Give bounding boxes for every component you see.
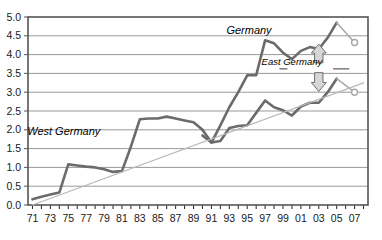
y-axis-label: 3.0	[6, 86, 21, 98]
germany-label: Germany	[226, 24, 273, 36]
y-axis-label: 0.0	[6, 199, 21, 211]
y-axis-labels: 0.00.51.01.52.02.53.03.54.04.55.0	[6, 11, 21, 211]
down-arrow-icon	[311, 73, 326, 92]
y-axis-label: 4.0	[6, 48, 21, 60]
x-axis-label: 05	[331, 212, 343, 224]
x-axis-label: 89	[188, 212, 200, 224]
annotation-arrows	[279, 44, 349, 91]
x-axis-label: 93	[223, 212, 235, 224]
y-axis-label: 3.5	[6, 67, 21, 79]
y-axis-label: 4.5	[6, 29, 21, 41]
y-axis-label: 1.0	[6, 161, 21, 173]
x-axis-label: 01	[295, 212, 307, 224]
x-axis-label: 71	[27, 212, 39, 224]
forecast-endpoint-marker	[352, 40, 358, 46]
east-germany-label: East Germany	[262, 56, 324, 67]
x-axis-label: 97	[259, 212, 271, 224]
x-axis-label: 91	[206, 212, 218, 224]
x-axis-label: 75	[62, 212, 74, 224]
forecast-endpoint-marker	[352, 89, 358, 95]
series-annotations: GermanyEast GermanyWest Germany	[27, 24, 323, 138]
x-axis-label: 85	[152, 212, 164, 224]
x-axis-label: 95	[241, 212, 253, 224]
x-axis-label: 83	[134, 212, 146, 224]
x-axis-label: 07	[349, 212, 361, 224]
series-line-germany-forecast	[337, 23, 355, 43]
x-axis-label: 73	[45, 212, 57, 224]
y-axis-label: 2.5	[6, 105, 21, 117]
x-axis-label: 99	[277, 212, 289, 224]
x-axis-label: 81	[116, 212, 128, 224]
y-axis-label: 0.5	[6, 180, 21, 192]
x-axis-label: 87	[170, 212, 182, 224]
west-germany-label: West Germany	[27, 125, 102, 137]
x-axis-label: 03	[313, 212, 325, 224]
chart-container: 0.00.51.01.52.02.53.03.54.04.55.0 717375…	[0, 0, 382, 240]
y-axis-label: 1.5	[6, 142, 21, 154]
y-axis-label: 2.0	[6, 123, 21, 135]
line-chart: 0.00.51.01.52.02.53.03.54.04.55.0 717375…	[0, 0, 382, 240]
x-axis-labels: 71737577798183858789919395979901030507	[27, 212, 361, 224]
x-axis-label: 77	[80, 212, 92, 224]
x-axis-label: 79	[98, 212, 110, 224]
y-axis-label: 5.0	[6, 11, 21, 23]
